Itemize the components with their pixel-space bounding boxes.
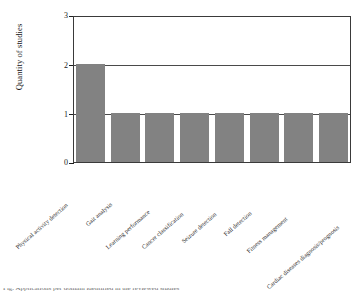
- x-label-cardiac-diseases-diagnosis-prognosis: Cardiac diseases diagnosis/prognosis: [265, 224, 340, 291]
- x-label-physical-activity-detection: Physical activity detection: [14, 201, 69, 250]
- figure-caption: Fig. Applications per domain identified …: [3, 288, 355, 297]
- x-label-gait-analysis: Gait analysis: [84, 200, 113, 227]
- x-label-fall-detection: Fall detection: [222, 209, 253, 237]
- bar-chart-figure: 3 2 1 0 Quantity of studies Physical act…: [0, 0, 361, 297]
- x-label-fitness-management: Fitness management: [245, 215, 289, 254]
- x-label-seizure-detection: Seizure detection: [180, 210, 218, 244]
- figure-caption-text: Fig. Applications per domain identified …: [3, 288, 179, 293]
- x-axis-labels: Physical activity detection Gait analysi…: [0, 0, 361, 297]
